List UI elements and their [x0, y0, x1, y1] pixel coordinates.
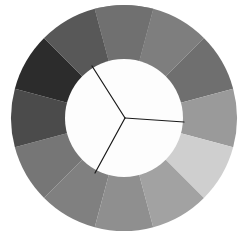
color-wheel-figure: [0, 0, 251, 238]
inner-white-disc: [65, 59, 183, 177]
color-wheel-canvas: [0, 0, 251, 238]
